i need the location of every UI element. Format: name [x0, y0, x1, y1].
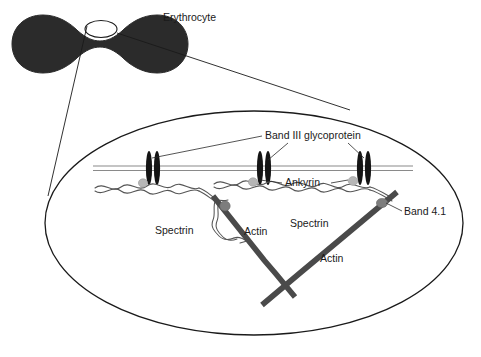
band3-glycoprotein-middle-b	[265, 151, 271, 185]
band3-glycoprotein-left-a	[146, 151, 152, 185]
ankyrin-node-left	[138, 179, 147, 187]
ankyrin-label: Ankyrin	[285, 176, 320, 188]
magnification-callout-ellipse	[85, 21, 117, 38]
ankyrin-node-group	[138, 177, 357, 188]
ankyrin-leader-right	[331, 180, 348, 183]
erythrocyte-membrane-figure: Erythrocyte Band III glycoprotein	[0, 0, 481, 357]
ankyrin-leader-left	[260, 180, 282, 183]
band3-leader-to-middle	[268, 143, 288, 160]
band41-node-left	[220, 201, 230, 211]
band3-glycoprotein-left-b	[154, 151, 160, 185]
band3-leader-to-right	[348, 143, 364, 158]
erythrocyte-cell-shape	[12, 15, 188, 73]
actin-filament-right	[262, 192, 397, 305]
actin-label-left: Actin	[244, 225, 268, 237]
erythrocyte-group	[12, 15, 188, 73]
magnified-view-boundary	[45, 111, 463, 335]
band41-node-right	[376, 198, 387, 207]
spectrin-label-right: Spectrin	[290, 217, 329, 229]
spectrin-strand-left-b	[95, 189, 199, 194]
band3-leader-to-left	[152, 136, 262, 158]
band41-node-group	[220, 198, 388, 211]
spectrin-label-left: Spectrin	[155, 224, 194, 236]
ankyrin-node-middle	[248, 178, 257, 186]
diagram-canvas: Erythrocyte Band III glycoprotein	[0, 0, 481, 357]
actin-label-right: Actin	[320, 252, 344, 264]
ankyrin-node-right	[348, 177, 358, 186]
actin-filament-group	[213, 192, 397, 305]
band41-label: Band 4.1	[404, 205, 446, 217]
erythrocyte-label: Erythrocyte	[163, 11, 216, 23]
band3-glycoprotein-right-b	[365, 151, 371, 185]
band3-glycoprotein-label: Band III glycoprotein	[265, 129, 361, 141]
band3-glycoprotein-group	[146, 151, 371, 185]
band41-leader-line	[386, 203, 402, 211]
